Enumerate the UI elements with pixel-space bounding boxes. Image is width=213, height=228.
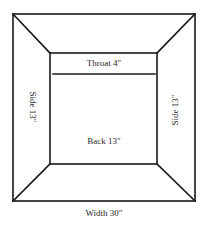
corner-line-bottom-left [13, 164, 50, 201]
corner-line-top-left [13, 14, 50, 53]
side-right-label: Side 13″ [171, 95, 180, 126]
width-label: Width 30″ [85, 209, 122, 218]
inner-back-rect [50, 53, 157, 164]
back-label: Back 13″ [87, 137, 121, 146]
corner-line-bottom-right [157, 164, 195, 201]
corner-line-top-right [157, 14, 195, 53]
throat-label: Throat 4″ [87, 59, 122, 68]
side-left-label: Side 13″ [28, 92, 37, 123]
